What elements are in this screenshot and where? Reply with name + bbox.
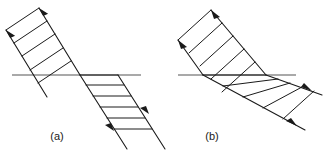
panel-b-incident-arrowheads [178, 10, 220, 49]
incident-ray [6, 30, 47, 97]
panel-b: (b) [178, 10, 322, 142]
arrow-head-icon [178, 40, 187, 49]
panel-a-refracted-rays [80, 75, 165, 149]
wavefront [38, 61, 71, 83]
wavefront [243, 83, 290, 97]
refracted-ray [266, 75, 322, 95]
wavefront [223, 79, 278, 86]
refracted-ray [118, 75, 165, 149]
panel-b-caption: (b) [205, 130, 218, 142]
wavefront [6, 8, 39, 30]
arrow-head-icon [286, 118, 297, 126]
wavefront [263, 87, 302, 108]
panel-a-caption: (a) [50, 130, 63, 142]
arrow-head-icon [211, 10, 220, 19]
wavefront [189, 23, 222, 53]
wavefront [30, 48, 63, 70]
arrow-head-icon [140, 106, 149, 114]
arrow-head-icon [6, 30, 15, 38]
wavefront [178, 10, 211, 40]
refraction-figure: (a) [0, 0, 325, 153]
panel-a: (a) [6, 8, 165, 149]
panel-a-incident-rays [6, 8, 80, 97]
panel-b-incident-rays [178, 10, 266, 75]
wavefront [200, 36, 233, 66]
incident-ray [211, 10, 266, 75]
panel-b-incident-wavefronts [178, 10, 255, 92]
wavefront [22, 34, 55, 56]
figure-canvas: (a) [0, 0, 325, 153]
panel-a-refracted-wavefronts [80, 75, 152, 129]
refracted-ray [80, 75, 127, 149]
arrow-head-icon [39, 8, 48, 16]
panel-a-incident-arrowheads [6, 8, 48, 38]
incident-ray [39, 8, 80, 75]
wavefront [14, 21, 47, 43]
panel-b-refracted-wavefronts [203, 75, 314, 119]
